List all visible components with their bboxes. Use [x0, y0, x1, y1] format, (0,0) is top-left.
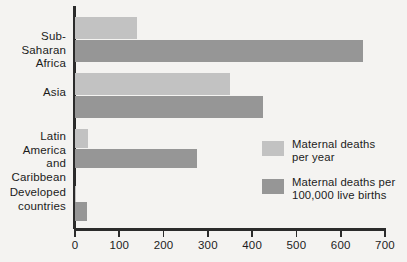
x-tick-300 — [207, 231, 209, 237]
legend-item-maternal-deaths-per-100000: Maternal deaths per 100,000 live births — [262, 178, 407, 208]
legend-swatch-light — [262, 141, 284, 156]
x-tick-label-500: 500 — [287, 239, 307, 251]
bar-asia-series-2 — [75, 96, 263, 118]
category-label-asia: Asia — [43, 86, 66, 100]
x-tick-600 — [340, 231, 342, 237]
bar-chart-figure: 0100200300400500600700 Sub-Saharan Afric… — [0, 0, 407, 262]
bar-sub-saharan-africa-series-1 — [75, 17, 137, 39]
legend-swatch-dark — [262, 179, 284, 194]
legend-label-maternal-deaths-per-100000: Maternal deaths per 100,000 live births — [292, 176, 395, 202]
x-tick-0 — [74, 231, 76, 237]
x-tick-100 — [118, 231, 120, 237]
bar-developed-countries-series-2 — [75, 202, 87, 221]
x-tick-500 — [296, 231, 298, 237]
x-tick-label-200: 200 — [154, 239, 174, 251]
category-label-developed-countries: Developed countries — [10, 186, 66, 213]
x-tick-label-100: 100 — [109, 239, 129, 251]
x-tick-label-300: 300 — [198, 239, 218, 251]
category-label-sub-saharan-africa: Sub-Saharan Africa — [0, 30, 66, 71]
legend-label-maternal-deaths-per-year: Maternal deaths per year — [292, 138, 375, 164]
x-tick-label-600: 600 — [331, 239, 351, 251]
legend-item-maternal-deaths-per-year: Maternal deaths per year — [262, 140, 407, 170]
bar-asia-series-1 — [75, 73, 230, 95]
x-tick-label-400: 400 — [242, 239, 262, 251]
x-tick-label-0: 0 — [72, 239, 79, 251]
x-tick-400 — [251, 231, 253, 237]
x-tick-200 — [163, 231, 165, 237]
category-label-latin-america-caribbean: Latin America and Caribbean — [0, 130, 66, 184]
bar-latin-america-caribbean-series-2 — [75, 149, 197, 168]
x-tick-700 — [384, 231, 386, 237]
x-tick-label-700: 700 — [375, 239, 395, 251]
bar-latin-america-caribbean-series-1 — [75, 129, 88, 148]
chart-legend: Maternal deaths per year Maternal deaths… — [262, 140, 407, 216]
bar-sub-saharan-africa-series-2 — [75, 40, 363, 62]
